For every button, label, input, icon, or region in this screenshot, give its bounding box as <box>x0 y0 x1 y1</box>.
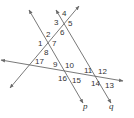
angle-label-1: 1 <box>38 39 43 48</box>
angle-label-8: 8 <box>44 48 49 57</box>
angle-label-13: 13 <box>105 81 114 90</box>
angle-label-4: 4 <box>62 9 67 18</box>
angle-label-15: 15 <box>72 76 81 85</box>
angle-label-3: 3 <box>54 18 59 27</box>
angle-label-5: 5 <box>68 19 73 28</box>
angle-label-17: 17 <box>35 57 44 66</box>
angle-label-10: 10 <box>65 61 74 70</box>
line-label-p: p <box>82 101 88 111</box>
angle-label-16: 16 <box>58 74 67 83</box>
angle-label-14: 14 <box>91 79 100 88</box>
angle-label-7: 7 <box>52 39 57 48</box>
geometry-diagram: 1234567891011121314151617 pq <box>0 0 134 118</box>
line-label-q: q <box>109 101 114 111</box>
angle-label-2: 2 <box>46 30 51 39</box>
line-labels-group: pq <box>82 101 114 111</box>
angle-label-6: 6 <box>60 28 65 37</box>
angle-label-12: 12 <box>98 67 107 76</box>
angle-label-9: 9 <box>53 60 58 69</box>
angle-label-11: 11 <box>84 66 93 75</box>
